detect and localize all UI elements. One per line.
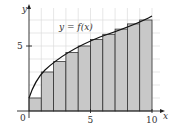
- y-axis-arrow-icon: [27, 4, 31, 9]
- riemann-sum-chart: y x 5 0 5 10 y = f(x): [0, 0, 173, 133]
- origin-label: 0: [20, 113, 26, 123]
- x-axis-label: x: [163, 111, 168, 121]
- x-tick-10: 10: [146, 115, 158, 125]
- x-tick-5: 5: [88, 115, 94, 125]
- y-tick-5: 5: [17, 41, 23, 51]
- y-axis-label: y: [21, 4, 28, 14]
- curve-label: y = f(x): [58, 22, 93, 32]
